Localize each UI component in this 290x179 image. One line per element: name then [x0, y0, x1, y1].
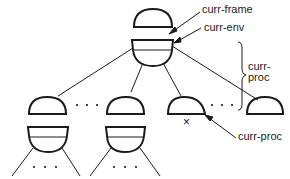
- tree-edges: [58, 46, 258, 100]
- root-frame: [134, 9, 172, 27]
- child-2: [90, 97, 160, 176]
- marker-x: ×: [183, 117, 190, 128]
- curr-proc-brace: [238, 42, 246, 110]
- child-1: [12, 97, 80, 176]
- curr-env-label: curr-env: [204, 22, 244, 33]
- root-env: [132, 40, 173, 66]
- child-3: [168, 97, 205, 114]
- curr-proc-pointer-label: curr-proc: [238, 131, 282, 142]
- environment-tree-diagram: [0, 0, 290, 179]
- child-4: [247, 97, 283, 114]
- curr-proc-brace-label-line2: proc: [248, 72, 269, 83]
- curr-frame-label: curr-frame: [202, 4, 253, 15]
